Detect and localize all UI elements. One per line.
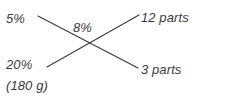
criss-cross-diagram: 5% 8% 12 parts 20% 3 parts (180 g) (0, 0, 230, 100)
line-bottom-left-to-top-right (47, 15, 139, 67)
label-mass-note: (180 g) (6, 79, 48, 92)
label-bottom-right-parts: 3 parts (141, 63, 181, 76)
label-top-right-parts: 12 parts (141, 11, 189, 24)
label-top-left-concentration: 5% (6, 12, 25, 25)
label-center-target-concentration: 8% (73, 21, 92, 34)
label-bottom-left-concentration: 20% (6, 58, 32, 71)
